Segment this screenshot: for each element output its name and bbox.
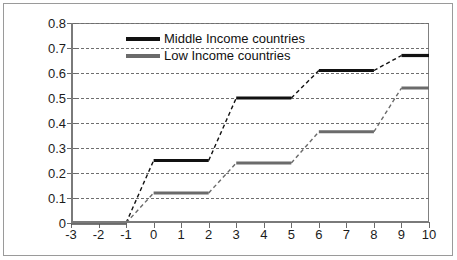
y-axis-labels: 00.10.20.30.40.50.60.70.8 (4, 23, 66, 223)
y-tick-label: 0.2 (6, 167, 66, 180)
chart-screenshot: 00.10.20.30.40.50.60.70.8 -3-2-101234567… (0, 0, 457, 260)
legend-label-middle-income: Middle Income countries (164, 31, 305, 47)
y-tick-label: 0.8 (6, 17, 66, 30)
series-middle-income (71, 56, 429, 224)
y-tick-label: 0.5 (6, 92, 66, 105)
series-riser-segment (126, 193, 154, 223)
x-axis-labels: -3-2-1012345678910 (71, 228, 429, 250)
y-tick-label: 0.6 (6, 67, 66, 80)
series-riser-segment (374, 56, 402, 71)
legend-item-low-income: Low Income countries (126, 48, 356, 65)
series-riser-segment (126, 161, 154, 224)
y-tick-label: 0.4 (6, 117, 66, 130)
legend-swatch-low-income (126, 54, 160, 58)
legend-label-low-income: Low Income countries (164, 48, 290, 64)
legend-item-middle-income: Middle Income countries (126, 31, 356, 48)
y-tick-label: 0.3 (6, 142, 66, 155)
series-low-income (71, 88, 429, 223)
figure-frame: 00.10.20.30.40.50.60.70.8 -3-2-101234567… (3, 3, 453, 256)
series-riser-segment (291, 132, 319, 163)
chart-legend: Middle Income countries Low Income count… (126, 31, 356, 65)
x-axis-line (71, 221, 429, 223)
legend-swatch-middle-income (126, 37, 160, 41)
x-tick-label: 10 (409, 228, 449, 241)
series-riser-segment (209, 98, 237, 161)
series-riser-segment (291, 71, 319, 99)
y-tick-label: 0.7 (6, 42, 66, 55)
y-axis-line (71, 23, 73, 223)
series-riser-segment (209, 163, 237, 193)
y-tick-label: 0.1 (6, 192, 66, 205)
series-riser-segment (374, 88, 402, 132)
